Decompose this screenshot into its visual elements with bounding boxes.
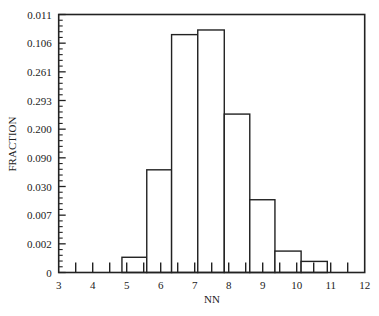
y-axis-ticks bbox=[59, 15, 66, 273]
x-axis-tick-labels: 3456789101112 bbox=[56, 279, 370, 291]
x-tick-label: 10 bbox=[291, 279, 303, 291]
x-tick-label: 7 bbox=[192, 279, 198, 291]
y-tick-label: 0.106 bbox=[27, 37, 52, 49]
x-tick-label: 12 bbox=[359, 279, 370, 291]
x-tick-label: 9 bbox=[260, 279, 266, 291]
y-tick-label: 0.011 bbox=[27, 9, 51, 21]
x-tick-label: 5 bbox=[124, 279, 130, 291]
y-tick-label: 0.293 bbox=[27, 95, 52, 107]
x-tick-label: 3 bbox=[56, 279, 62, 291]
x-axis-title: NN bbox=[204, 293, 220, 305]
y-tick-label: 0.261 bbox=[27, 66, 52, 78]
histogram-bars bbox=[122, 30, 327, 273]
y-tick-label: 0.200 bbox=[27, 123, 52, 135]
histogram-bar bbox=[147, 170, 172, 273]
histogram-bar bbox=[224, 114, 250, 272]
y-tick-label: 0.030 bbox=[27, 181, 52, 193]
y-tick-label: 0.090 bbox=[27, 152, 52, 164]
x-tick-label: 6 bbox=[158, 279, 164, 291]
y-tick-label: 0.002 bbox=[27, 238, 52, 250]
x-tick-label: 11 bbox=[325, 279, 336, 291]
y-tick-label: 0 bbox=[46, 267, 52, 279]
y-tick-label: 0.007 bbox=[27, 209, 52, 221]
histogram-chart: 3456789101112 0.0110.1060.2610.2930.2000… bbox=[0, 0, 379, 316]
x-tick-label: 8 bbox=[226, 279, 232, 291]
y-axis-tick-labels: 0.0110.1060.2610.2930.2000.0900.0300.007… bbox=[27, 9, 52, 279]
histogram-bar bbox=[198, 30, 225, 273]
y-axis-title: FRACTION bbox=[6, 116, 18, 171]
histogram-bar bbox=[172, 35, 198, 273]
histogram-bar bbox=[250, 200, 275, 273]
x-tick-label: 4 bbox=[90, 279, 96, 291]
